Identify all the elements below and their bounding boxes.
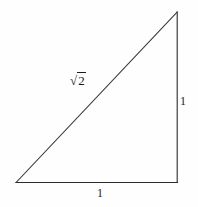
vertical-leg-label: 1: [180, 95, 186, 107]
radical-group: √2: [70, 72, 86, 87]
triangle-outline: [16, 12, 178, 183]
radical-sign-icon: √: [70, 73, 77, 88]
triangle-hypotenuse-line: [16, 12, 177, 183]
radicand-value: 2: [77, 72, 86, 87]
triangle-diagram-svg: [0, 0, 198, 207]
triangle-figure: √2 1 1: [0, 0, 198, 207]
base-leg-label: 1: [97, 187, 103, 199]
hypotenuse-label: √2: [70, 72, 86, 87]
